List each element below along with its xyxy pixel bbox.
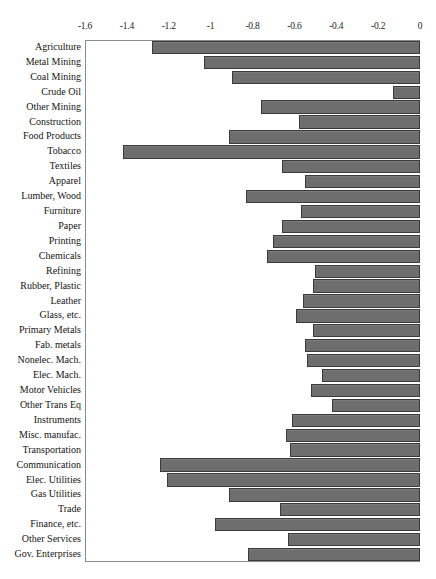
chart-row: Elec. Mach. xyxy=(0,368,436,383)
chart-row: Gov. Enterprises xyxy=(0,547,436,562)
category-label: Glass, etc. xyxy=(40,308,81,323)
bar xyxy=(305,339,420,352)
bar xyxy=(303,294,420,307)
chart-row: Other Mining xyxy=(0,100,436,115)
category-label: Other Trans Eq xyxy=(20,398,81,413)
bar xyxy=(332,399,420,412)
category-label: Tobacco xyxy=(47,144,81,159)
category-label: Primary Metals xyxy=(19,323,81,338)
chart-row: Tobacco xyxy=(0,144,436,159)
x-axis-tick-label: -1.2 xyxy=(162,20,176,33)
chart-row: Finance, etc. xyxy=(0,517,436,532)
category-label: Printing xyxy=(49,234,81,249)
bar xyxy=(152,41,420,54)
chart-row: Primary Metals xyxy=(0,323,436,338)
category-label: Construction xyxy=(29,115,81,130)
bar xyxy=(267,250,420,263)
category-label: Crude Oil xyxy=(41,85,81,100)
bar xyxy=(204,56,420,69)
chart-row: Crude Oil xyxy=(0,85,436,100)
category-label: Gas Utilities xyxy=(31,487,81,502)
bar xyxy=(246,190,420,203)
category-label: Elec. Utilities xyxy=(26,473,81,488)
chart-row: Trade xyxy=(0,502,436,517)
chart-row: Instruments xyxy=(0,413,436,428)
chart-row: Gas Utilities xyxy=(0,487,436,502)
category-label: Misc. manufac. xyxy=(19,428,81,443)
bar xyxy=(232,71,420,84)
chart-row: Transportation xyxy=(0,443,436,458)
category-label: Chemicals xyxy=(39,249,81,264)
chart-row: Coal Mining xyxy=(0,70,436,85)
category-label: Metal Mining xyxy=(26,55,81,70)
bar-chart: -1.6-1.4-1.2-1-0.8-0.6-0.4-0.20 Agricult… xyxy=(0,0,436,579)
category-label: Paper xyxy=(58,219,81,234)
chart-row: Other Trans Eq xyxy=(0,398,436,413)
bar xyxy=(393,86,420,99)
bar xyxy=(311,384,420,397)
chart-row: Chemicals xyxy=(0,249,436,264)
chart-row: Communication xyxy=(0,458,436,473)
x-axis-tick-label: -0.8 xyxy=(245,20,259,33)
bar xyxy=(123,145,420,158)
chart-row: Leather xyxy=(0,294,436,309)
chart-rows: AgricultureMetal MiningCoal MiningCrude … xyxy=(0,40,436,562)
bar xyxy=(273,235,420,248)
category-label: Elec. Mach. xyxy=(33,368,81,383)
category-label: Apparel xyxy=(49,174,81,189)
bar xyxy=(299,115,420,128)
category-label: Communication xyxy=(17,458,81,473)
category-label: Fab. metals xyxy=(35,338,81,353)
bar xyxy=(282,160,420,173)
bar xyxy=(290,443,420,456)
bar xyxy=(286,429,420,442)
chart-row: Printing xyxy=(0,234,436,249)
category-label: Trade xyxy=(58,502,81,517)
bar xyxy=(307,354,420,367)
chart-row: Furniture xyxy=(0,204,436,219)
bar xyxy=(215,518,420,531)
chart-row: Apparel xyxy=(0,174,436,189)
bar xyxy=(248,548,420,561)
chart-row: Fab. metals xyxy=(0,338,436,353)
category-label: Coal Mining xyxy=(30,70,81,85)
bar xyxy=(229,488,420,501)
category-label: Gov. Enterprises xyxy=(14,547,81,562)
bar xyxy=(229,130,420,143)
bar xyxy=(315,265,420,278)
x-axis-tick-label: 0 xyxy=(418,20,423,33)
bar xyxy=(167,473,420,486)
category-label: Refining xyxy=(46,264,81,279)
x-axis-tick-label: -0.2 xyxy=(371,20,385,33)
bar xyxy=(313,324,420,337)
category-label: Lumber, Wood xyxy=(21,189,81,204)
category-label: Rubber, Plastic xyxy=(20,279,81,294)
x-axis-tick-labels: -1.6-1.4-1.2-1-0.8-0.6-0.4-0.20 xyxy=(0,20,436,36)
bar xyxy=(261,100,420,113)
bar xyxy=(313,279,420,292)
category-label: Instruments xyxy=(34,413,81,428)
category-label: Other Mining xyxy=(26,100,81,115)
bar xyxy=(160,458,420,471)
chart-row: Refining xyxy=(0,264,436,279)
chart-row: Agriculture xyxy=(0,40,436,55)
chart-row: Elec. Utilities xyxy=(0,473,436,488)
bar xyxy=(296,309,420,322)
chart-row: Other Services xyxy=(0,532,436,547)
x-axis-tick-label: -1 xyxy=(207,20,215,33)
chart-row: Textiles xyxy=(0,159,436,174)
bar xyxy=(322,369,420,382)
chart-row: Paper xyxy=(0,219,436,234)
chart-row: Rubber, Plastic xyxy=(0,279,436,294)
chart-row: Food Products xyxy=(0,129,436,144)
x-axis-tick-label: -1.4 xyxy=(120,20,134,33)
category-label: Motor Vehicles xyxy=(20,383,81,398)
chart-row: Motor Vehicles xyxy=(0,383,436,398)
bar xyxy=(301,205,420,218)
x-axis-tick-label: -0.6 xyxy=(287,20,301,33)
bar xyxy=(280,503,420,516)
category-label: Leather xyxy=(50,294,81,309)
chart-row: Metal Mining xyxy=(0,55,436,70)
chart-row: Lumber, Wood xyxy=(0,189,436,204)
x-axis-tick-label: -0.4 xyxy=(329,20,343,33)
